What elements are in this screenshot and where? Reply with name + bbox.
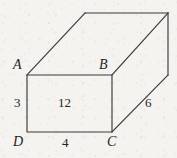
dimension-label-bottom-width: 4 — [62, 136, 69, 149]
prism-figure-canvas: A B C D 3 12 4 6 — [0, 0, 177, 158]
depth-edge-b — [112, 13, 168, 75]
rectangular-prism-drawing — [0, 0, 177, 158]
vertex-label-c: C — [107, 135, 116, 149]
dimension-label-depth: 6 — [145, 96, 152, 109]
vertex-label-a: A — [13, 58, 22, 72]
vertex-label-d: D — [13, 135, 23, 149]
depth-edge-a — [27, 13, 85, 75]
depth-edge-c — [112, 75, 168, 132]
dimension-label-face-area: 12 — [58, 96, 71, 109]
vertex-label-b: B — [99, 58, 108, 72]
dimension-label-left-height: 3 — [14, 96, 21, 109]
